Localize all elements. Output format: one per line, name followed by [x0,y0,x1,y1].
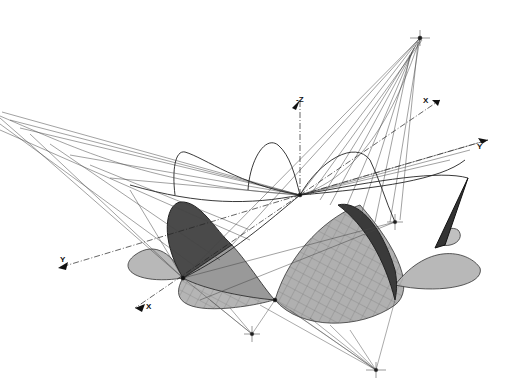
axis-label-y-left: Y [60,256,65,264]
axis-label-y-right: Y [477,143,482,151]
axis-label-x-top: X [423,97,428,105]
diagram-canvas [0,0,518,388]
arrow-x-bottom-icon [135,304,145,312]
arrow-x-top-icon [432,100,440,106]
axis-label-neg-z: -Z [296,96,304,104]
axis-label-x-bottom: X [146,303,151,311]
vertex-marks [181,30,430,378]
